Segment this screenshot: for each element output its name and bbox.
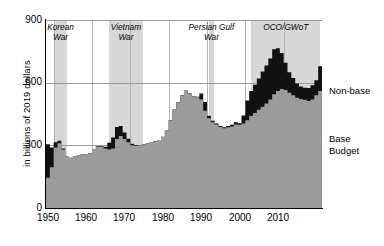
x-tick-1950: 1950	[31, 213, 65, 223]
series-plot	[46, 20, 322, 208]
y-tick-900: 900	[12, 15, 42, 25]
y-axis-tick-labels: 900 600 300 0	[10, 0, 42, 246]
x-axis-line	[45, 208, 323, 209]
x-tick-1970: 1970	[107, 213, 141, 223]
legend-base-label-line2: Budget	[329, 145, 359, 156]
legend-nonbase-label: Non-base	[329, 85, 370, 96]
y-tick-600: 600	[12, 77, 42, 87]
defense-spending-chart: in billions of 2019 dollars 900 600 300 …	[0, 0, 384, 246]
x-tick-1990: 1990	[184, 213, 218, 223]
x-tick-1980: 1980	[146, 213, 180, 223]
x-tick-1960: 1960	[69, 213, 103, 223]
war-band-label-oco-gwot: OCO/GWoT	[226, 22, 322, 32]
x-tick-2010: 2010	[261, 213, 295, 223]
x-tick-2000: 2000	[223, 213, 257, 223]
y-tick-300: 300	[12, 140, 42, 150]
series-base-area	[46, 89, 322, 208]
plot-area: KoreanWarVietnamWarPersian GulfWarOCO/GW…	[46, 20, 322, 208]
legend-base-label-line1: Base	[329, 133, 351, 144]
